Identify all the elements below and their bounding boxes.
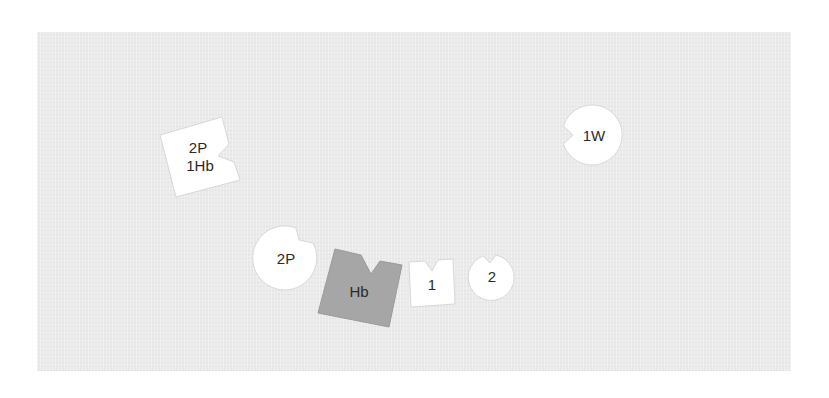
notched-circle-1w: 1W [564,105,623,165]
shapes-canvas: 2P 1Hb 1W 2P Hb 1 2 [0,0,829,398]
notched-circle-2: 2 [468,255,514,300]
label-1: 1 [428,276,436,293]
label-2: 2 [488,268,496,285]
notched-circle-2p: 2P [253,226,317,290]
label-hb: Hb [349,283,368,300]
label-2p: 2P [189,139,207,156]
label-2p-circle: 2P [277,250,295,267]
label-1hb: 1Hb [186,157,214,174]
figure: 2P 1Hb 1W 2P Hb 1 2 [0,0,829,398]
notched-square-1: 1 [409,259,455,307]
label-1w: 1W [583,127,606,144]
notched-square-hb: Hb [318,249,402,327]
notched-square-2p-1hb: 2P 1Hb [160,117,240,197]
